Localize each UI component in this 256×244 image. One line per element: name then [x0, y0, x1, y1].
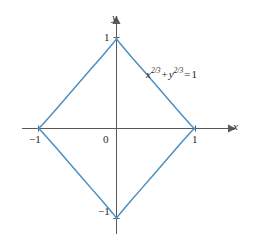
- tick-label-x-negative-one: −1: [29, 134, 41, 145]
- equation-right-hand-side: 1: [191, 68, 197, 80]
- astroid-figure: y x 1 −1 −1 1 0 x2/3+y2/3=1: [0, 0, 256, 244]
- axis-label-y: y: [112, 12, 117, 23]
- axis-label-x: x: [233, 121, 238, 132]
- tick-label-y-negative-one: −1: [98, 206, 110, 217]
- tick-label-origin: 0: [103, 134, 109, 145]
- equation-y-exponent: 2/3: [174, 66, 184, 75]
- equation-annotation: x2/3+y2/3=1: [146, 69, 197, 80]
- equation-plus-operator: +: [160, 68, 168, 80]
- tick-label-x-positive-one: 1: [192, 134, 198, 145]
- plot-canvas: [0, 0, 256, 244]
- tick-label-y-positive-one: 1: [104, 32, 110, 43]
